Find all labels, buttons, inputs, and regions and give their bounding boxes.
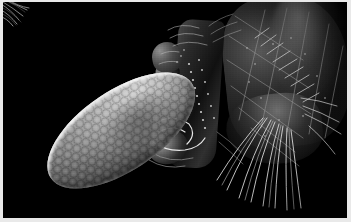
setae-group (3, 2, 347, 218)
setae-bottom-right (217, 118, 301, 210)
image-viewer (0, 0, 351, 222)
setae-right-edge (301, 98, 341, 154)
micrograph-plate (3, 2, 347, 218)
